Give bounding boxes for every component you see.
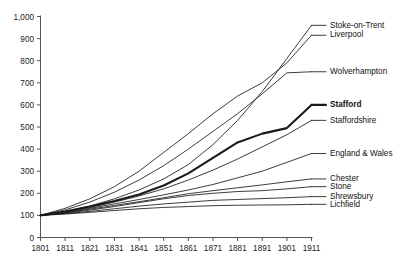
y-axis-tick-label: 400 <box>20 145 34 154</box>
x-axis-tick-label: 1861 <box>179 244 198 253</box>
y-axis-tick-label: 600 <box>20 101 34 110</box>
y-axis-tick-label: 900 <box>20 35 34 44</box>
y-axis-tick-label: 100 <box>20 211 34 220</box>
series-label-lichfield: Lichfield <box>330 200 360 209</box>
chart-page: 01002003004005006007008009001,000 180118… <box>0 0 409 261</box>
x-axis-tick-label: 1911 <box>303 244 321 253</box>
series-label-stoke-on-trent: Stoke-on-Trent <box>330 21 385 30</box>
x-axis-tick-label: 1811 <box>56 244 74 253</box>
series-label-staffordshire: Staffordshire <box>330 116 377 125</box>
series-label-england-wales: England & Wales <box>330 149 393 158</box>
x-axis-tick-label: 1801 <box>31 244 50 253</box>
x-axis-tick-label: 1851 <box>155 244 174 253</box>
series-label-stafford: Stafford <box>330 100 361 109</box>
x-axis-tick-label: 1881 <box>228 244 247 253</box>
y-axis-tick-label: 800 <box>20 57 34 66</box>
x-axis-tick-label: 1891 <box>253 244 272 253</box>
y-axis-tick-label: 1,000 <box>14 13 35 22</box>
population-index-line-chart: 01002003004005006007008009001,000 180118… <box>0 0 409 261</box>
y-axis-tick-label: 0 <box>29 234 34 243</box>
series-label-liverpool: Liverpool <box>330 30 363 39</box>
y-axis-tick-label: 700 <box>20 79 34 88</box>
series-label-wolverhampton: Wolverhampton <box>330 67 388 76</box>
y-axis-tick-label: 500 <box>20 123 34 132</box>
x-axis-tick-label: 1821 <box>81 244 100 253</box>
x-axis-tick-label: 1831 <box>105 244 124 253</box>
x-axis-tick-label: 1901 <box>278 244 297 253</box>
series-label-stone: Stone <box>330 182 352 191</box>
x-axis-tick-label: 1841 <box>130 244 149 253</box>
x-axis-tick-label: 1871 <box>204 244 223 253</box>
y-axis-tick-label: 300 <box>20 167 34 176</box>
y-axis-tick-label: 200 <box>20 189 34 198</box>
